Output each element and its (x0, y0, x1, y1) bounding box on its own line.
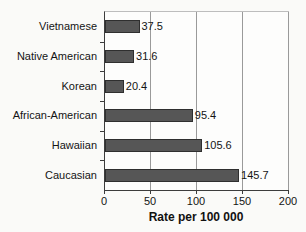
value-label: 31.6 (136, 51, 157, 62)
bar-row: Vietnamese37.5 (105, 12, 289, 42)
bar (105, 80, 124, 93)
x-axis: Rate per 100 000 050100150200 (104, 190, 288, 232)
x-axis-tick (150, 190, 151, 194)
x-tick-label: 150 (233, 196, 251, 207)
category-label: Native American (17, 51, 97, 62)
y-axis-tick (100, 42, 105, 43)
x-tick-label: 200 (279, 196, 297, 207)
category-label: Hawaiian (52, 140, 97, 151)
x-tick-label: 0 (101, 196, 107, 207)
x-tick-label: 100 (187, 196, 205, 207)
bar-row: African-American95.4 (105, 101, 289, 131)
y-axis-tick (100, 101, 105, 102)
y-axis-tick (100, 71, 105, 72)
bar (105, 109, 193, 122)
value-label: 20.4 (126, 81, 147, 92)
bar-row: Hawaiian105.6 (105, 131, 289, 161)
x-axis-title: Rate per 100 000 (104, 210, 288, 224)
x-tick-label: 50 (144, 196, 156, 207)
category-label: Caucasian (45, 170, 97, 181)
bar (105, 139, 202, 152)
value-label: 105.6 (204, 140, 232, 151)
value-label: 145.7 (241, 170, 269, 181)
bar (105, 20, 140, 33)
category-label: Vietnamese (39, 21, 97, 32)
plot-area: Vietnamese37.5Native American31.6Korean2… (104, 11, 289, 191)
bar-chart-figure: Vietnamese37.5Native American31.6Korean2… (0, 0, 306, 232)
x-axis-tick (104, 190, 105, 194)
x-axis-tick (288, 190, 289, 194)
value-label: 95.4 (195, 110, 216, 121)
value-label: 37.5 (142, 21, 163, 32)
bar (105, 50, 134, 63)
category-label: African-American (13, 110, 97, 121)
bar-row: Native American31.6 (105, 42, 289, 72)
bar-row: Caucasian145.7 (105, 160, 289, 190)
x-axis-tick (196, 190, 197, 194)
y-axis-tick (100, 131, 105, 132)
category-label: Korean (62, 81, 97, 92)
y-axis-tick (100, 160, 105, 161)
bar-row: Korean20.4 (105, 71, 289, 101)
bar (105, 169, 239, 182)
x-axis-tick (242, 190, 243, 194)
